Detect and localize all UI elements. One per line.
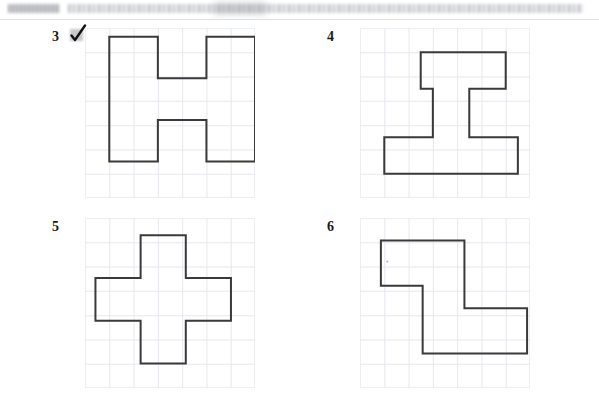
figure-5-number: 5	[52, 220, 59, 234]
figure-4-number: 4	[327, 30, 334, 44]
scan-smudge	[214, 2, 266, 15]
figure-5-grid	[85, 218, 255, 388]
redacted-title-block	[68, 4, 583, 13]
worksheet-page: 3	[0, 0, 599, 397]
figure-3-grid	[85, 28, 255, 198]
figure-6-number: 6	[327, 220, 334, 234]
figure-4-grid	[360, 28, 530, 198]
header-divider	[0, 19, 599, 20]
redacted-tag-block	[8, 4, 60, 13]
figure-6-grid	[360, 218, 530, 388]
figure-3-number: 3	[52, 30, 59, 44]
